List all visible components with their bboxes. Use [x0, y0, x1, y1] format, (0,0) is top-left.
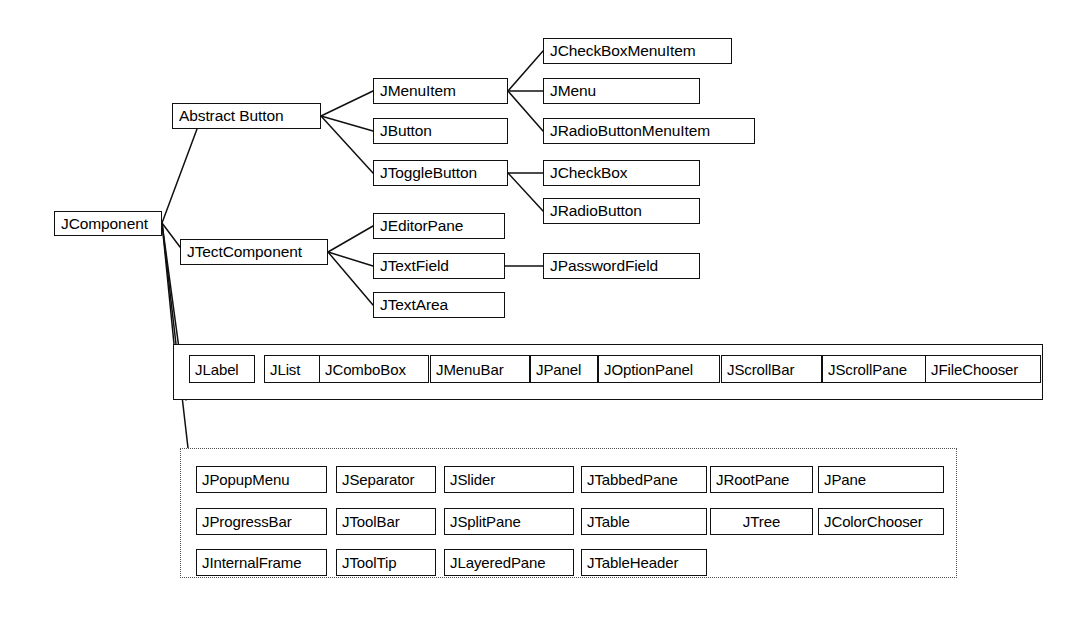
node-label: JMenu: [550, 83, 596, 99]
component-box-jscrollbar[interactable]: JScrollBar: [721, 355, 822, 383]
node-jradiobuttonmenuitem[interactable]: JRadioButtonMenuItem: [543, 118, 755, 144]
node-jeditorpane[interactable]: JEditorPane: [373, 213, 505, 239]
component-box-joptionpanel[interactable]: JOptionPanel: [598, 355, 720, 383]
node-label: JCheckBoxMenuItem: [550, 43, 696, 59]
component-box-jlayeredpane[interactable]: JLayeredPane: [444, 549, 574, 576]
node-jradiobutton[interactable]: JRadioButton: [543, 198, 700, 224]
chip-label: JColorChooser: [824, 514, 923, 529]
component-box-jscrollpane[interactable]: JScrollPane: [822, 355, 932, 383]
connector-abstract-button-to-jmenuitem: [321, 91, 373, 116]
node-jbutton[interactable]: JButton: [373, 118, 508, 144]
component-box-jtoolbar[interactable]: JToolBar: [336, 508, 436, 535]
node-jmenuitem[interactable]: JMenuItem: [373, 78, 508, 104]
node-label: JEditorPane: [380, 218, 463, 234]
node-label: JMenuItem: [380, 83, 456, 99]
component-box-jpanel[interactable]: JPanel: [530, 355, 598, 383]
node-label: JButton: [380, 123, 432, 139]
node-label: JRadioButtonMenuItem: [550, 123, 710, 139]
connector-jcomponent-to-abstract-button: [162, 129, 197, 223]
diagram-canvas: JComponent Abstract Button JMenuItem JCh…: [0, 0, 1089, 618]
component-box-jtableheader[interactable]: JTableHeader: [581, 549, 707, 576]
component-box-jpopupmenu[interactable]: JPopupMenu: [196, 466, 327, 493]
chip-label: JScrollPane: [828, 362, 907, 377]
chip-label: JLabel: [195, 362, 239, 377]
node-label: JPasswordField: [550, 258, 658, 274]
node-label: JTextArea: [380, 297, 448, 313]
chip-label: JTree: [743, 514, 780, 529]
chip-label: JPane: [824, 472, 866, 487]
connector-jmenuitem-to-jcheckboxmenuitem: [508, 51, 543, 91]
component-box-jtabbedpane[interactable]: JTabbedPane: [581, 466, 707, 493]
component-box-jcombobox[interactable]: JComboBox: [319, 355, 429, 383]
connector-abstract-button-to-jtogglebutton: [321, 116, 373, 173]
chip-label: JOptionPanel: [604, 362, 693, 377]
node-jtextfield[interactable]: JTextField: [373, 253, 505, 279]
chip-label: JScrollBar: [727, 362, 794, 377]
chip-label: JInternalFrame: [202, 555, 301, 570]
component-box-jtree[interactable]: JTree: [710, 508, 813, 535]
node-label: JCheckBox: [550, 165, 628, 181]
component-box-jlabel[interactable]: JLabel: [189, 355, 255, 383]
component-box-jtooltip[interactable]: JToolTip: [336, 549, 436, 576]
chip-label: JToolBar: [342, 514, 400, 529]
connector-jtectcomponent-to-jtextarea: [328, 252, 373, 305]
component-box-jinternalframe[interactable]: JInternalFrame: [196, 549, 327, 576]
component-box-jfilechooser[interactable]: JFileChooser: [925, 355, 1041, 383]
chip-label: JLayeredPane: [450, 555, 546, 570]
component-box-jlist[interactable]: JList: [264, 355, 320, 383]
chip-label: JPanel: [536, 362, 581, 377]
chip-label: JSplitPane: [450, 514, 521, 529]
node-label: JToggleButton: [380, 165, 477, 181]
node-jtextarea[interactable]: JTextArea: [373, 292, 505, 318]
node-jmenu[interactable]: JMenu: [543, 78, 700, 104]
node-jpasswordfield[interactable]: JPasswordField: [543, 253, 700, 279]
connector-jtectcomponent-to-jtextfield: [328, 252, 373, 266]
chip-label: JFileChooser: [931, 362, 1018, 377]
component-box-jmenubar[interactable]: JMenuBar: [430, 355, 530, 383]
component-box-jcolorchooser[interactable]: JColorChooser: [818, 508, 944, 535]
chip-label: JPopupMenu: [202, 472, 289, 487]
connector-jtogglebutton-to-jradiobutton: [508, 173, 543, 211]
chip-label: JComboBox: [325, 362, 406, 377]
chip-label: JTable: [587, 514, 630, 529]
component-box-jtable[interactable]: JTable: [581, 508, 707, 535]
chip-label: JList: [270, 362, 300, 377]
node-label: JRadioButton: [550, 203, 642, 219]
chip-label: JTabbedPane: [587, 472, 678, 487]
connector-jmenuitem-to-jradiobuttonmenuitem: [508, 91, 543, 131]
node-label: Abstract Button: [179, 108, 283, 124]
chip-label: JProgressBar: [202, 514, 292, 529]
node-jcheckboxmenuitem[interactable]: JCheckBoxMenuItem: [543, 38, 732, 64]
connector-abstract-button-to-jbutton: [321, 116, 373, 131]
node-abstract-button[interactable]: Abstract Button: [172, 103, 321, 129]
chip-label: JRootPane: [716, 472, 789, 487]
component-box-jprogressbar[interactable]: JProgressBar: [196, 508, 327, 535]
component-box-jslider[interactable]: JSlider: [444, 466, 574, 493]
component-box-jpane[interactable]: JPane: [818, 466, 944, 493]
chip-label: JSeparator: [342, 472, 414, 487]
connector-jtectcomponent-to-jeditorpane: [328, 226, 373, 252]
node-label: JTectComponent: [187, 244, 302, 260]
connector-jcomponent-to-jtectcomponent: [162, 223, 180, 247]
chip-label: JSlider: [450, 472, 495, 487]
node-jtectcomponent[interactable]: JTectComponent: [180, 239, 328, 265]
node-jcheckbox[interactable]: JCheckBox: [543, 160, 700, 186]
component-box-jsplitpane[interactable]: JSplitPane: [444, 508, 574, 535]
component-box-jrootpane[interactable]: JRootPane: [710, 466, 813, 493]
chip-label: JTableHeader: [587, 555, 678, 570]
node-jcomponent[interactable]: JComponent: [54, 211, 162, 236]
node-jtogglebutton[interactable]: JToggleButton: [373, 160, 508, 186]
connector-jcomponent-to-direct-subclasses-row: [162, 223, 174, 344]
node-label: JTextField: [380, 258, 449, 274]
node-label: JComponent: [61, 216, 148, 232]
component-box-jseparator[interactable]: JSeparator: [336, 466, 436, 493]
chip-label: JToolTip: [342, 555, 397, 570]
chip-label: JMenuBar: [436, 362, 504, 377]
